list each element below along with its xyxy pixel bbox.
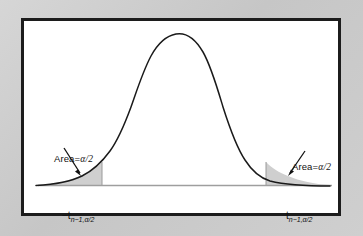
tick-right-subscript: n−1,α/2 [289, 216, 313, 223]
area-label-right: Area=α/2 [292, 162, 331, 173]
tick-label-negative-critical-value: −tn−1,α/2 [62, 211, 94, 221]
tick-label-positive-critical-value: tn−1,α/2 [286, 211, 312, 221]
area-label-left-value: α/2 [80, 154, 93, 164]
figure-border: Area=α/2 Area=α/2 −tn−1,α/2 tn−1,α/2 [21, 18, 341, 216]
figure-root: Area=α/2 Area=α/2 −tn−1,α/2 tn−1,α/2 [0, 0, 363, 236]
tick-left-subscript: n−1,α/2 [71, 216, 95, 223]
area-label-right-word: Area [292, 161, 312, 172]
area-label-right-value: α/2 [318, 162, 331, 172]
t-distribution-plot [24, 21, 338, 213]
plot-area: Area=α/2 Area=α/2 −tn−1,α/2 tn−1,α/2 [24, 21, 338, 213]
left-tail-shaded-region [38, 162, 102, 185]
area-label-left: Area=α/2 [54, 154, 93, 165]
area-label-left-word: Area [54, 153, 74, 164]
